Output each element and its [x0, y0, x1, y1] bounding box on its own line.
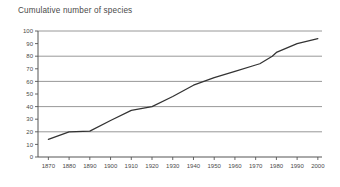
x-axis-tick-label: 1980 — [270, 163, 284, 169]
x-axis-tick-label: 1880 — [62, 163, 76, 169]
gridlines-group — [38, 31, 322, 132]
y-axis-tick-label: 90 — [26, 41, 33, 47]
y-axis-tick-label: 60 — [26, 79, 33, 85]
y-axis-ticks-group: 0102030405060708090100 — [23, 28, 38, 160]
x-axis-ticks-group: 1870188018901900191019201930194019501960… — [42, 157, 325, 169]
x-axis-tick-label: 1990 — [290, 163, 304, 169]
x-axis-tick-label: 1920 — [145, 163, 159, 169]
x-axis-tick-label: 1970 — [249, 163, 263, 169]
y-axis-tick-label: 30 — [26, 116, 33, 122]
line-chart-plot: 0102030405060708090100 18701880189019001… — [0, 0, 340, 187]
x-axis-tick-label: 1940 — [187, 163, 201, 169]
data-series-line — [48, 39, 317, 140]
y-axis-tick-label: 70 — [26, 66, 33, 72]
y-axis-tick-label: 100 — [23, 28, 34, 34]
x-axis-tick-label: 1890 — [83, 163, 97, 169]
x-axis-tick-label: 2000 — [311, 163, 325, 169]
y-axis-tick-label: 80 — [26, 53, 33, 59]
chart-figure: Cumulative number of species 01020304050… — [0, 0, 340, 187]
x-axis-tick-label: 1900 — [104, 163, 118, 169]
y-axis-tick-label: 50 — [26, 91, 33, 97]
x-axis-tick-label: 1930 — [166, 163, 180, 169]
x-axis-tick-label: 1950 — [208, 163, 222, 169]
y-axis-tick-label: 20 — [26, 129, 33, 135]
y-axis-tick-label: 10 — [26, 142, 33, 148]
x-axis-tick-label: 1910 — [125, 163, 139, 169]
y-axis-tick-label: 40 — [26, 104, 33, 110]
x-axis-tick-label: 1960 — [228, 163, 242, 169]
y-axis-tick-label: 0 — [30, 154, 34, 160]
x-axis-tick-label: 1870 — [42, 163, 56, 169]
